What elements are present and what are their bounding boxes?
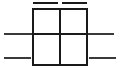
figure-canvas xyxy=(0,0,121,80)
line-diagram-svg xyxy=(0,0,121,80)
